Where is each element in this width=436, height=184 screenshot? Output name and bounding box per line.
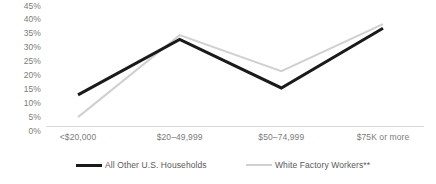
y-axis-tick-5: 5% bbox=[29, 113, 42, 122]
y-axis-tick-10: 10% bbox=[24, 99, 41, 108]
plot-area bbox=[46, 6, 424, 131]
x-axis-category-labels: <$20,000$20–49,999$50–74,999$75K or more bbox=[46, 132, 424, 148]
y-axis-tick-25: 25% bbox=[24, 57, 41, 66]
y-axis-tick-35: 35% bbox=[24, 29, 41, 38]
series-line-0 bbox=[78, 28, 383, 95]
legend-item-1[interactable]: White Factory Workers** bbox=[246, 160, 370, 170]
legend-swatch-icon-1 bbox=[246, 164, 272, 166]
y-axis-tick-45: 45% bbox=[24, 2, 41, 11]
y-axis-tick-40: 40% bbox=[24, 15, 41, 24]
y-axis-tick-0: 0% bbox=[29, 127, 42, 136]
x-axis-category-2: $50–74,999 bbox=[258, 132, 304, 143]
legend-label-1: White Factory Workers** bbox=[275, 160, 370, 170]
legend-label-0: All Other U.S. Households bbox=[105, 160, 207, 170]
y-axis-tick-20: 20% bbox=[24, 71, 41, 80]
legend-item-0[interactable]: All Other U.S. Households bbox=[76, 160, 207, 170]
chart-legend: All Other U.S. HouseholdsWhite Factory W… bbox=[46, 160, 424, 176]
legend-swatch-icon-0 bbox=[76, 164, 102, 167]
y-axis-tick-15: 15% bbox=[24, 85, 41, 94]
x-axis-category-0: <$20,000 bbox=[60, 132, 97, 143]
x-axis-category-1: $20–49,999 bbox=[157, 132, 203, 143]
line-chart: 45%40%35%30%25%20%15%10%5%0% <$20,000$20… bbox=[0, 0, 436, 184]
series-lines bbox=[46, 6, 424, 131]
y-axis-tick-30: 30% bbox=[24, 43, 41, 52]
x-axis-category-3: $75K or more bbox=[357, 132, 410, 143]
y-axis-tick-labels: 45%40%35%30%25%20%15%10%5%0% bbox=[0, 0, 44, 131]
